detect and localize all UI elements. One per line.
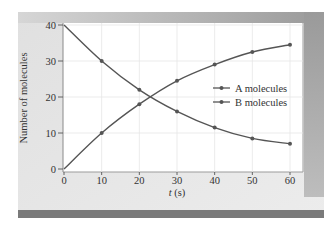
x-tick-label: 60 [285,175,296,186]
panel-bottom-bar [18,210,324,218]
data-point-marker-icon [137,88,141,92]
data-point-marker-icon [213,126,217,130]
panel-right-bar [304,12,324,197]
data-point-marker-icon [288,142,292,146]
data-point-marker-icon [288,43,292,47]
legend-marker-b-icon [220,100,224,104]
data-point-marker-icon [175,79,179,83]
x-tick-label: 50 [247,175,258,186]
data-point-marker-icon [213,63,217,67]
legend-label-a: A molecules [235,83,287,94]
data-point-marker-icon [250,50,254,54]
x-tick-label: 0 [61,175,66,186]
x-axis-title: t (s) [169,187,186,199]
data-point-marker-icon [100,59,104,63]
x-tick-label: 20 [134,175,145,186]
y-tick-label: 20 [46,92,57,103]
data-point-marker-icon [137,102,141,106]
data-point-marker-icon [175,109,179,113]
y-tick-label: 10 [46,128,57,139]
data-point-marker-icon [100,131,104,135]
x-tick-label: 10 [96,175,107,186]
y-tick-label: 40 [46,20,57,31]
y-tick-label: 30 [46,56,57,67]
y-tick-label: 0 [51,164,56,175]
y-axis-title: Number of molecules [18,53,29,144]
x-tick-label: 30 [172,175,183,186]
data-point-marker-icon [250,136,254,140]
panel-top-bar [18,12,324,23]
chart-figure: 0102030400102030405060 Number of molecul… [0,0,336,226]
x-tick-label: 40 [209,175,220,186]
legend-label-b: B molecules [235,97,287,108]
legend-marker-a-icon [220,86,224,90]
x-axis-title-unit: (s) [172,187,186,199]
